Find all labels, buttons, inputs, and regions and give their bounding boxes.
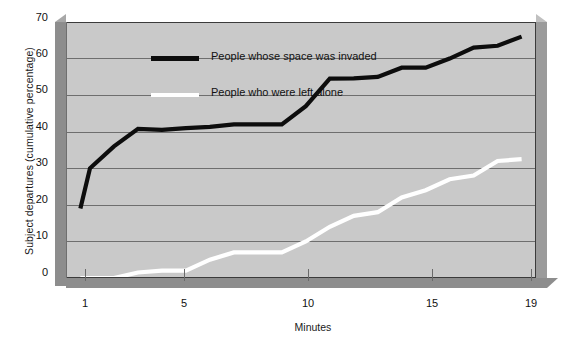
x-axis-title: Minutes (0, 321, 582, 333)
x-tick-label-15: 15 (419, 298, 445, 309)
frame-left-bevel (55, 14, 66, 22)
frame-left-slab (55, 22, 66, 286)
y-tick-label-10: 10 (14, 230, 48, 241)
x-tick-label-10: 10 (295, 298, 321, 309)
frame-right-slab (536, 22, 547, 278)
x-tick-mark-1 (85, 269, 86, 281)
x-tick-label-19: 19 (518, 298, 544, 309)
y-tick-label-60: 60 (14, 48, 48, 59)
line-series-invaded (80, 37, 521, 209)
plot-border-top (66, 22, 536, 23)
legend-label-invaded: People whose space was invaded (211, 50, 377, 62)
y-tick-label-50: 50 (14, 84, 48, 95)
x-tick-mark-15 (432, 269, 433, 281)
plot-frame: People whose space was invaded People wh… (55, 14, 547, 294)
x-tick-mark-19 (531, 269, 532, 281)
frame-right-bevel (536, 14, 547, 22)
plot-border-bottom (66, 277, 536, 278)
frame-bottom-slab (66, 278, 547, 288)
x-tick-mark-5 (184, 269, 185, 281)
plot-border-left (66, 22, 67, 278)
legend-label-alone: People who were left alone (211, 86, 343, 98)
legend-swatch-alone-icon (151, 93, 199, 97)
frame-bottom-bevel (547, 278, 558, 288)
chart-figure: Subject departures (cumulative percentag… (0, 0, 582, 347)
legend-swatch-invaded-icon (151, 56, 199, 61)
y-tick-label-40: 40 (14, 121, 48, 132)
x-tick-mark-10 (308, 269, 309, 281)
y-tick-label-20: 20 (14, 194, 48, 205)
line-series-alone (80, 159, 521, 278)
x-tick-label-5: 5 (171, 298, 197, 309)
x-tick-label-1: 1 (72, 298, 98, 309)
plot-border-right (535, 22, 536, 278)
x-axis-title-text: Minutes (295, 321, 332, 333)
y-tick-label-0: 0 (14, 267, 48, 278)
y-tick-label-30: 30 (14, 157, 48, 168)
y-tick-label-70: 70 (14, 12, 48, 23)
